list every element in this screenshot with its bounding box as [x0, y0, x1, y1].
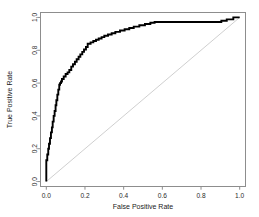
y-tick-label: 0.2 — [31, 144, 38, 153]
y-tick-label: 1.0 — [31, 13, 38, 22]
y-tick-label: 0.8 — [31, 45, 38, 54]
y-tick-label: 0.6 — [31, 78, 38, 87]
x-tick-label: 0.0 — [42, 192, 51, 199]
x-tick-label: 0.2 — [80, 192, 89, 199]
roc-plot-canvas: 0.00.20.40.60.81.0 0.00.20.40.60.81.0 Fa… — [0, 0, 259, 217]
x-tick-label: 0.6 — [158, 192, 167, 199]
y-tick-label: 0.4 — [31, 111, 38, 120]
x-tick-label: 1.0 — [235, 192, 244, 199]
x-tick-label: 0.4 — [119, 192, 128, 199]
figure-background — [0, 0, 259, 217]
x-tick-label: 0.8 — [196, 192, 205, 199]
y-axis-title: True Positive Rate — [6, 71, 13, 128]
x-axis-title: False Positive Rate — [113, 203, 173, 210]
y-tick-label: 0.0 — [31, 177, 38, 186]
roc-curve-figure: 0.00.20.40.60.81.0 0.00.20.40.60.81.0 Fa… — [0, 0, 259, 217]
